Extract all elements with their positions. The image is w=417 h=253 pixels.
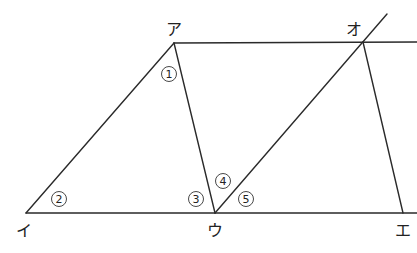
angle-2-marker: 2 [52, 192, 67, 207]
vertex-label-e: エ [395, 221, 411, 240]
angle-2-label: 2 [56, 193, 63, 206]
geometry-diagram: 12345 アイウオエ [0, 0, 417, 253]
segment-o-e [363, 42, 403, 213]
vertex-label-o: オ [346, 20, 362, 39]
segment-a-i [26, 43, 174, 213]
vertex-label-u: ウ [207, 221, 223, 240]
angle-4-label: 4 [220, 175, 227, 188]
angle-5-label: 5 [243, 193, 250, 206]
vertex-label-i: イ [16, 221, 32, 240]
angle-markers-group: 12345 [52, 67, 254, 207]
angle-1-marker: 1 [162, 67, 177, 82]
line-u-o-extended [215, 14, 387, 213]
vertex-label-a: ア [166, 20, 182, 39]
angle-3-marker: 3 [189, 192, 204, 207]
line-a-top [174, 42, 417, 43]
diagram-canvas: 12345 アイウオエ [0, 0, 417, 253]
angle-4-marker: 4 [216, 174, 231, 189]
segment-a-u [174, 43, 215, 213]
angle-3-label: 3 [193, 193, 200, 206]
angle-1-label: 1 [166, 68, 173, 81]
angle-5-marker: 5 [239, 192, 254, 207]
